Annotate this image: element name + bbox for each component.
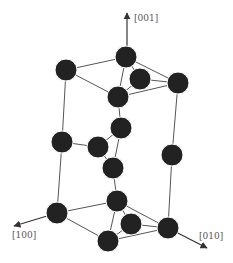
atom [102, 157, 124, 179]
atoms [46, 46, 189, 252]
axis-label-010: [010] [199, 231, 223, 241]
atom [51, 131, 73, 153]
atom [87, 136, 109, 158]
bonds [57, 57, 178, 241]
atom [107, 86, 129, 108]
atom [46, 202, 68, 224]
atom [110, 117, 132, 139]
axis-label-100: [100] [12, 230, 36, 240]
atom [129, 68, 151, 90]
atom [161, 144, 183, 166]
crystal-structure-diagram: [001] [100] [010] [0, 0, 233, 263]
atom [97, 230, 119, 252]
axis-label-001: [001] [134, 13, 158, 23]
atom [55, 59, 77, 81]
atom [157, 217, 179, 239]
atom [106, 190, 128, 212]
atom [167, 72, 189, 94]
atom [120, 213, 142, 235]
atom [115, 46, 137, 68]
